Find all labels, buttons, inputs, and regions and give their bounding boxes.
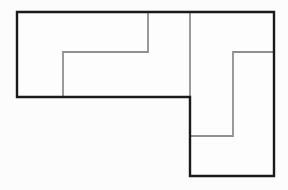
floor-plan-canvas (0, 0, 288, 190)
floor-area (17, 12, 274, 176)
floor-plan-diagram (0, 0, 288, 190)
